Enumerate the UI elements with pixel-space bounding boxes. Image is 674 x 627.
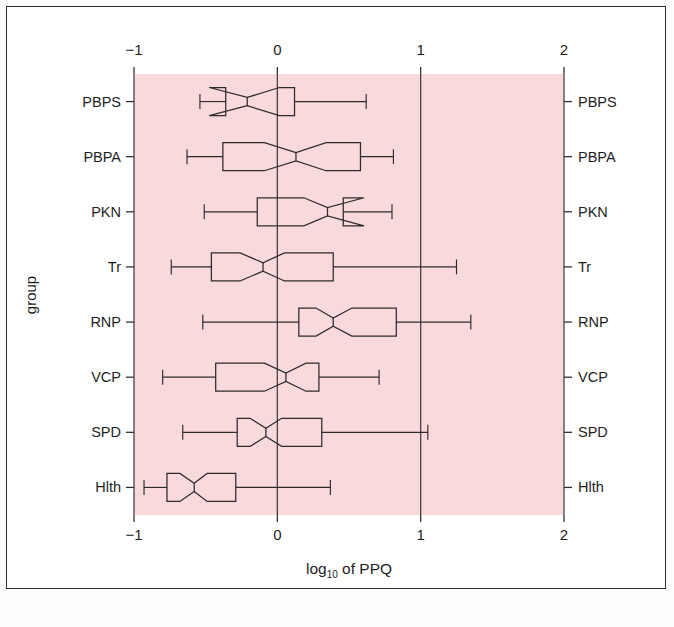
y-tick-label-left-pkn: PKN [55, 204, 121, 220]
box-PKN [204, 198, 392, 226]
y-tick-label-right-spd: SPD [578, 424, 608, 440]
y-tick-label-right-vcp: VCP [578, 369, 608, 385]
y-tick-label-right-pbps: PBPS [578, 94, 617, 110]
box-outline-SPD [237, 418, 322, 446]
box-SPD [183, 418, 428, 446]
x-tick-label-top-3: 2 [560, 41, 568, 58]
box-outline-RNP [299, 308, 396, 336]
y-tick-label-left-rnp: RNP [55, 314, 121, 330]
y-tick-label-left-pbpa: PBPA [55, 149, 121, 165]
x-tick-label-bottom-3: 2 [560, 526, 568, 543]
box-outline-PBPA [223, 143, 361, 171]
x-tick-label-top-2: 1 [416, 41, 424, 58]
y-tick-label-right-rnp: RNP [578, 314, 609, 330]
y-tick-label-left-spd: SPD [55, 424, 121, 440]
y-tick-label-left-vcp: VCP [55, 369, 121, 385]
x-tick-label-bottom-1: 0 [273, 526, 281, 543]
box-Hlth [144, 473, 330, 501]
y-tick-label-right-pkn: PKN [578, 204, 608, 220]
box-outline-Tr [211, 253, 333, 281]
y-tick-label-left-pbps: PBPS [55, 94, 121, 110]
box-PBPS [200, 88, 366, 116]
y-tick-label-right-tr: Tr [578, 259, 591, 275]
box-RNP [203, 308, 471, 336]
x-tick-label-bottom-0: −1 [125, 526, 142, 543]
box-Tr [171, 253, 456, 281]
y-tick-label-left-tr: Tr [55, 259, 121, 275]
x-tick-label-bottom-2: 1 [416, 526, 424, 543]
box-PBPA [187, 143, 393, 171]
y-tick-label-left-hlth: Hlth [55, 479, 121, 495]
box-outline-Hlth [167, 473, 236, 501]
x-tick-label-top-1: 0 [273, 41, 281, 58]
figure-canvas: group log10 of PPQ −1012 −1012 PBPSPBPAP… [0, 0, 674, 627]
box-VCP [163, 363, 379, 391]
y-tick-label-right-pbpa: PBPA [578, 149, 616, 165]
box-outline-VCP [216, 363, 319, 391]
y-tick-label-right-hlth: Hlth [578, 479, 604, 495]
x-tick-label-top-0: −1 [125, 41, 142, 58]
